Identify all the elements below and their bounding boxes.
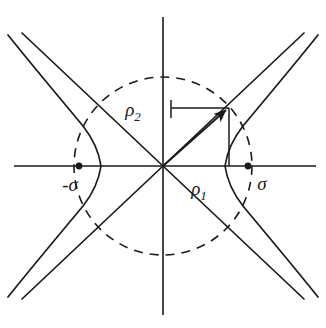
sigma-negative-label: -σ [62, 174, 78, 195]
rho2-label: ρ2 [124, 99, 141, 124]
diagram-canvas: ρ2 ρ1 σ -σ [0, 0, 326, 328]
hyperbola-figure: ρ2 ρ1 σ -σ [0, 0, 326, 328]
focus-dot-negative [76, 163, 83, 170]
focus-dot-positive [245, 163, 252, 170]
rho1-subscript: 1 [200, 188, 207, 203]
rho2-glyph: ρ [124, 99, 134, 120]
sigma-positive-label: σ [257, 173, 267, 194]
radius-vector-arrow [163, 110, 226, 166]
rho2-subscript: 2 [134, 109, 141, 124]
rho1-glyph: ρ [190, 178, 200, 199]
